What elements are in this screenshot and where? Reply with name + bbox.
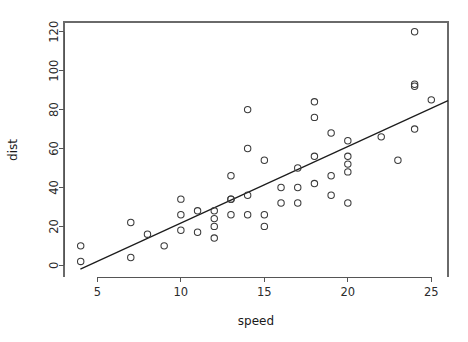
figure-background <box>0 0 468 342</box>
y-tick-label: 120 <box>47 21 61 43</box>
y-tick-label: 80 <box>47 102 61 117</box>
x-tick-label: 15 <box>257 285 272 299</box>
scatter-plot-figure: 020406080100120 510152025 speed dist <box>0 0 468 342</box>
x-tick-label: 25 <box>424 285 439 299</box>
y-tick-label: 40 <box>47 180 61 195</box>
y-axis-title: dist <box>6 139 20 161</box>
y-tick-label: 20 <box>47 219 61 234</box>
y-tick-label: 100 <box>47 60 61 82</box>
x-tick-label: 5 <box>94 285 101 299</box>
x-tick-label: 20 <box>341 285 356 299</box>
y-tick-label: 60 <box>47 141 61 156</box>
x-tick-label: 10 <box>174 285 189 299</box>
y-tick-label: 0 <box>47 262 61 269</box>
x-axis-title: speed <box>238 314 274 328</box>
chart-canvas: 020406080100120 510152025 speed dist <box>0 0 468 342</box>
